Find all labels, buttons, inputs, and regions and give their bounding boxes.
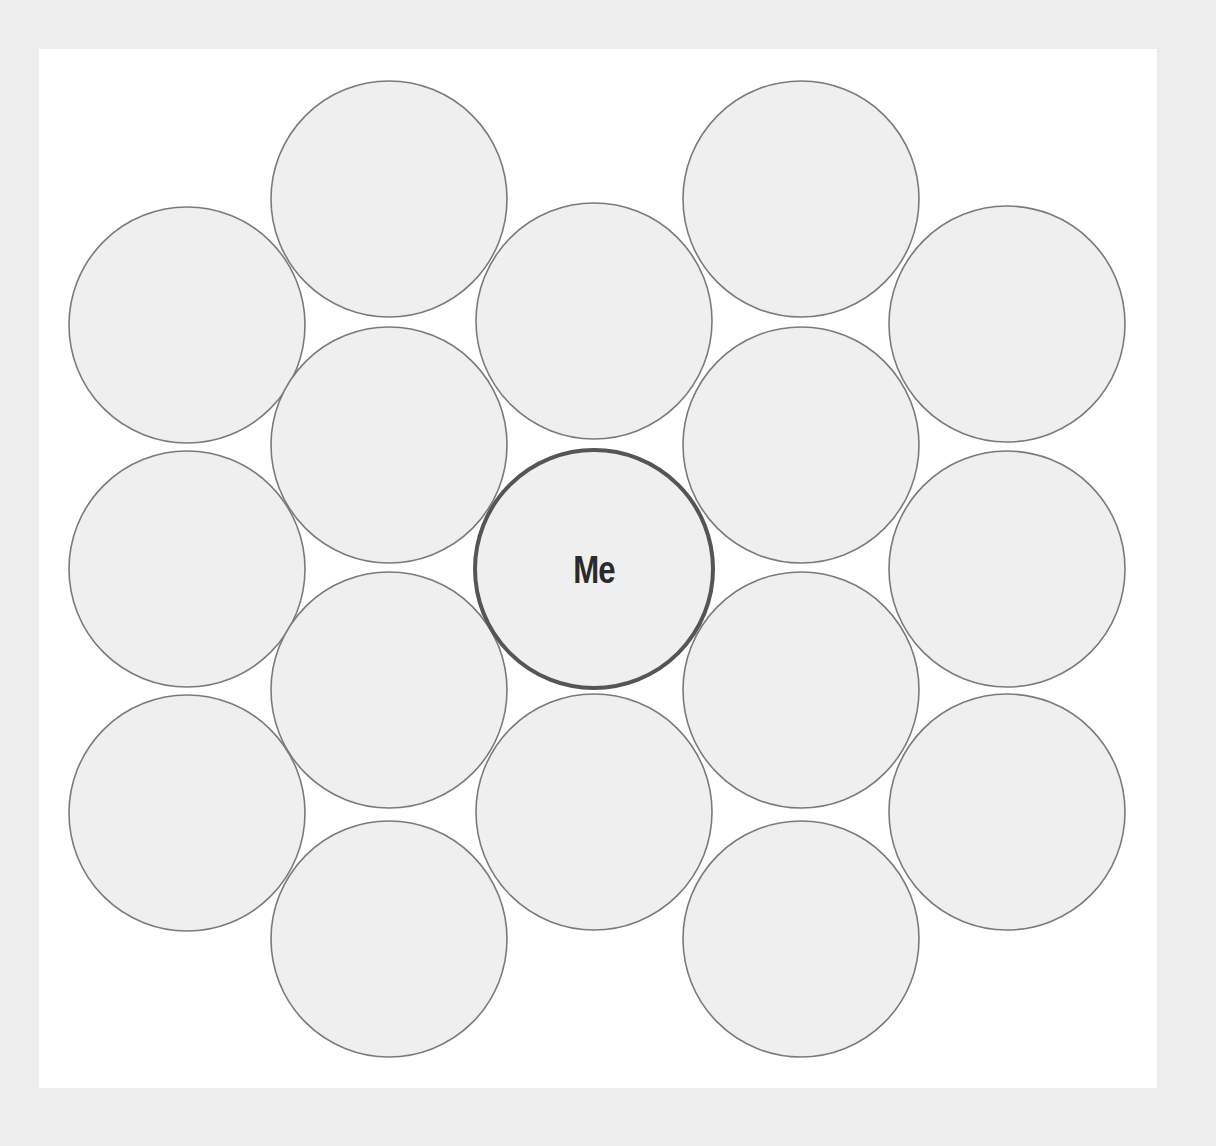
center-label: Me [573,549,615,591]
bubble-c1-r6[interactable] [69,695,305,931]
bubble-c2-r1[interactable] [271,81,507,317]
bubble-c5-r2[interactable] [889,206,1125,442]
bubble-c4-r3[interactable] [683,327,919,563]
bubble-c3-r2[interactable] [476,203,712,439]
bubble-c1-r4[interactable] [69,451,305,687]
bubble-c4-r7[interactable] [683,821,919,1057]
bubble-c2-r3[interactable] [271,327,507,563]
center-node: Me [475,450,713,688]
bubble-c4-r5[interactable] [683,572,919,808]
circle-map-diagram: Me [0,0,1216,1146]
bubble-c4-r1[interactable] [683,81,919,317]
bubble-c5-r4[interactable] [889,451,1125,687]
bubble-c2-r7[interactable] [271,821,507,1057]
bubble-c2-r5[interactable] [271,572,507,808]
bubble-c3-r6[interactable] [476,694,712,930]
bubble-c1-r2[interactable] [69,207,305,443]
bubble-c5-r6[interactable] [889,694,1125,930]
